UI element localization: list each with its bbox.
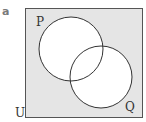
universe-label: U xyxy=(15,106,25,120)
set-q-label: Q xyxy=(125,100,135,114)
venn-diagram: P Q U xyxy=(0,0,146,122)
set-p-label: P xyxy=(36,15,44,29)
